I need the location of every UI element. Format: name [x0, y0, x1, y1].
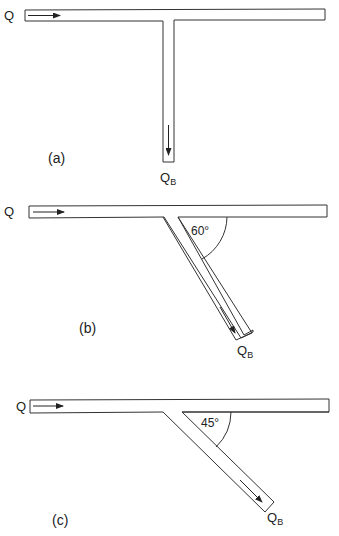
panel-c: Q 45° QB (c) — [16, 399, 329, 528]
t-junction-pipe — [25, 9, 325, 162]
inlet-flow-label: Q — [4, 204, 14, 219]
angle-label: 45° — [201, 416, 219, 430]
branch-wall-right — [178, 217, 252, 333]
branch-flow-label: QB — [237, 343, 253, 360]
branch-flow-arrow-icon — [220, 307, 235, 333]
branch-flow-label: QB — [267, 510, 283, 527]
panel-caption: (c) — [52, 512, 68, 528]
panel-caption: (b) — [79, 320, 96, 336]
main-pipe-top — [30, 399, 329, 412]
panel-caption: (a) — [48, 150, 65, 166]
panel-b: Q 60° QB (b) — [4, 204, 327, 360]
sixty-degree-branch-pipe — [29, 205, 327, 338]
main-pipe-bottom-left — [30, 412, 163, 413]
panel-a: Q QB (a) — [4, 8, 325, 187]
branch-flow-label: QB — [160, 170, 176, 187]
inlet-flow-label: Q — [4, 8, 14, 23]
inlet-flow-label: Q — [16, 399, 26, 414]
branch-wall-right — [182, 412, 274, 502]
pipe-branch-diagram: Q QB (a) Q 60° QB (b) Q 45° QB (c) — [0, 0, 339, 536]
angle-label: 60° — [191, 224, 209, 238]
